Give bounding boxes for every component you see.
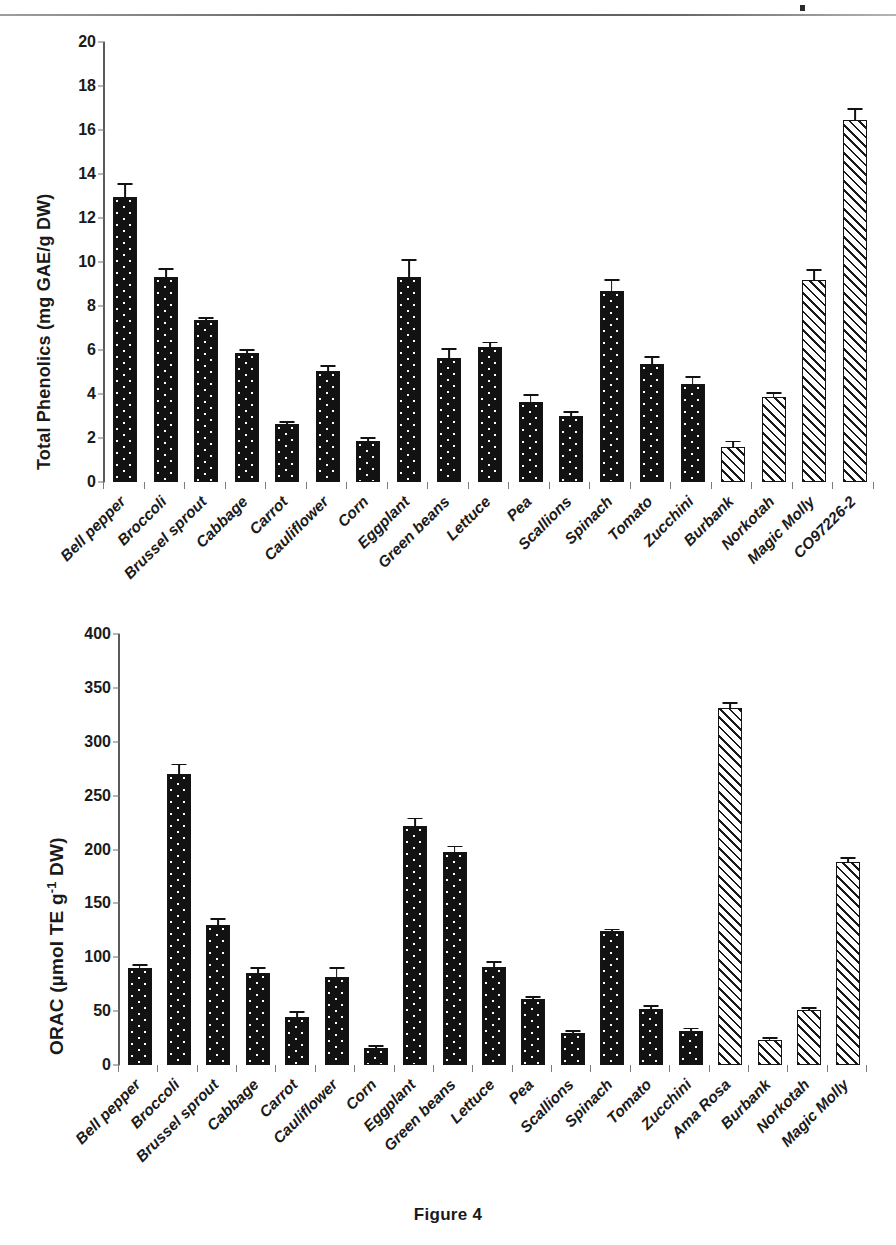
error-bar-cap xyxy=(841,857,856,859)
bar-group xyxy=(194,42,218,482)
y-axis-tick-mark xyxy=(98,306,105,307)
bar-group xyxy=(600,42,624,482)
y-axis-tick-label: 350 xyxy=(84,679,111,697)
bar-group xyxy=(128,634,152,1065)
bar-group xyxy=(356,42,380,482)
bar-group xyxy=(316,42,340,482)
y-axis-tick-label: 12 xyxy=(78,209,96,227)
error-bar xyxy=(336,969,338,977)
y-axis-tick-label: 4 xyxy=(87,385,96,403)
bar xyxy=(802,280,826,482)
bar xyxy=(443,852,467,1065)
error-bar-cap xyxy=(565,1030,580,1032)
x-axis-tick-mark xyxy=(184,482,185,489)
error-bar-cap xyxy=(211,918,226,920)
error-bar xyxy=(286,423,288,424)
bar xyxy=(154,277,178,482)
y-axis-tick-mark xyxy=(98,130,105,131)
bar xyxy=(437,358,461,482)
error-bar xyxy=(808,1009,810,1010)
bar xyxy=(681,384,705,482)
x-axis-tick-mark xyxy=(630,482,631,489)
error-bar-cap xyxy=(766,392,781,394)
bar xyxy=(639,1009,663,1065)
error-bar xyxy=(572,1032,574,1033)
y-axis-tick-label: 14 xyxy=(78,165,96,183)
bar-group xyxy=(478,42,502,482)
x-axis-tick-mark xyxy=(589,482,590,489)
error-bar-cap xyxy=(408,818,423,820)
y-axis-tick-mark xyxy=(113,795,120,796)
bar xyxy=(316,371,340,482)
bar-group xyxy=(758,634,782,1065)
scan-artifact-dot xyxy=(800,5,805,11)
bar-series-total-phenolics xyxy=(105,42,873,482)
bar-group xyxy=(275,42,299,482)
x-axis-tick-mark xyxy=(306,482,307,489)
bar-group xyxy=(154,42,178,482)
y-axis-tick-mark xyxy=(98,350,105,351)
error-bar-cap xyxy=(564,411,579,413)
y-axis-tick-label: 8 xyxy=(87,297,96,315)
bar xyxy=(561,1033,585,1065)
error-bar-cap xyxy=(605,929,620,931)
error-bar xyxy=(651,1007,653,1009)
x-axis-tick-mark xyxy=(748,1065,749,1072)
bar-group xyxy=(246,634,270,1065)
x-axis-tick-mark xyxy=(346,482,347,489)
bar-group xyxy=(285,634,309,1065)
x-axis-tick-mark xyxy=(827,1065,828,1072)
error-bar xyxy=(690,1029,692,1030)
error-bar xyxy=(454,847,456,851)
error-bar-cap xyxy=(401,259,416,261)
x-axis-tick-mark xyxy=(512,1065,513,1072)
bar xyxy=(600,931,624,1065)
error-bar-cap xyxy=(685,376,700,378)
error-bar-cap xyxy=(807,269,822,271)
error-bar-cap xyxy=(447,846,462,848)
error-bar xyxy=(246,351,248,353)
x-axis-tick-mark xyxy=(433,1065,434,1072)
bar-group xyxy=(519,42,543,482)
error-bar-cap xyxy=(132,964,147,966)
error-bar xyxy=(692,378,694,385)
error-bar-cap xyxy=(320,365,335,367)
x-axis-tick-mark xyxy=(387,482,388,489)
y-axis-tick-mark xyxy=(98,262,105,263)
error-bar xyxy=(651,358,653,365)
error-bar-cap xyxy=(483,342,498,344)
error-bar-cap xyxy=(847,108,862,110)
bar-group xyxy=(437,42,461,482)
error-bar xyxy=(375,1047,377,1048)
x-axis-tick-mark xyxy=(832,482,833,489)
bar-group xyxy=(762,42,786,482)
y-axis-tick-mark xyxy=(98,438,105,439)
bar-group xyxy=(235,42,259,482)
error-bar-cap xyxy=(683,1028,698,1030)
bar-group xyxy=(640,42,664,482)
error-bar-cap xyxy=(526,996,541,998)
error-bar xyxy=(218,920,220,925)
bar-group xyxy=(403,634,427,1065)
bar xyxy=(843,120,867,482)
error-bar-cap xyxy=(726,441,741,443)
y-axis-tick-label: 20 xyxy=(78,33,96,51)
x-axis-tick-mark xyxy=(866,1065,867,1072)
x-axis-tick-mark xyxy=(275,1065,276,1072)
x-axis-tick-mark xyxy=(551,1065,552,1072)
x-axis-tick-mark xyxy=(394,1065,395,1072)
x-axis-tick-mark xyxy=(144,482,145,489)
error-bar xyxy=(368,439,370,441)
error-bar-cap xyxy=(329,967,344,969)
bar xyxy=(640,364,664,482)
error-bar xyxy=(611,281,613,291)
error-bar-cap xyxy=(280,421,295,423)
bar-group xyxy=(561,634,585,1065)
x-axis-tick-mark xyxy=(157,1065,158,1072)
error-bar xyxy=(847,859,849,862)
y-axis-tick-mark xyxy=(113,687,120,688)
error-bar xyxy=(257,969,259,973)
y-axis-label-orac: ORAC (µmol TE g-1 DW) xyxy=(44,837,68,1055)
x-axis-tick-mark xyxy=(472,1065,473,1072)
bar-group xyxy=(559,42,583,482)
